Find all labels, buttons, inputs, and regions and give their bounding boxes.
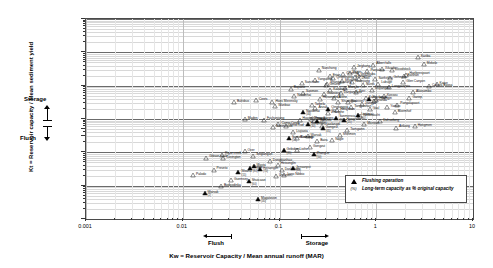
data-point-label: Mangla	[348, 86, 359, 89]
legend-item-flushing: Flushing operation	[349, 178, 463, 184]
data-point-label: Longyangxia	[392, 85, 410, 88]
data-point-capacity-percent: (60)	[361, 117, 366, 120]
x-axis-minor-tick	[143, 218, 144, 220]
gridline-v-major	[86, 19, 87, 219]
gridline-v-minor	[115, 19, 116, 219]
gridline-v-major	[473, 19, 474, 219]
data-point-label: Mokolo	[427, 62, 437, 65]
data-point-label: Naodehai	[297, 94, 311, 97]
data-point-label: Fengman	[358, 75, 372, 78]
data-point-capacity-percent: (50)	[292, 139, 297, 142]
data-point-reservoir	[308, 145, 313, 149]
data-point-label: Woodstock	[395, 68, 411, 71]
gridline-v-minor	[258, 19, 259, 219]
data-point-label: Glen Canyon	[406, 80, 425, 83]
data-point-label: Preveto	[217, 167, 228, 170]
data-point-label: Dahuofang	[383, 119, 399, 122]
flush-arrow-stem	[206, 236, 231, 237]
x-axis-minor-tick	[325, 218, 326, 220]
x-axis-minor-tick	[153, 218, 154, 220]
x-axis-minor-tick	[366, 218, 367, 220]
data-point-label: Singlangan	[256, 153, 272, 156]
data-point-flushing	[301, 110, 306, 114]
data-point-flushing	[311, 152, 316, 156]
data-point-reservoir	[354, 90, 359, 94]
data-point-capacity-percent: (45)	[320, 122, 325, 125]
data-point-capacity-percent: (85)	[287, 152, 292, 155]
legend-label-capacity: Long-term capacity as % original capacit…	[362, 186, 454, 191]
x-axis-minor-tick	[114, 218, 115, 220]
data-point-reservoir	[274, 174, 279, 178]
data-point-flushing	[334, 115, 339, 119]
data-point-label: Hongmen	[418, 124, 432, 127]
data-point-flushing	[236, 170, 241, 174]
data-point-reservoir	[297, 117, 302, 121]
x-axis-minor-tick	[177, 218, 178, 220]
data-point-reservoir	[365, 69, 370, 73]
data-point-label: Baira	[320, 139, 327, 142]
data-point-label: Shuangpai	[341, 100, 356, 103]
x-axis-minor-tick	[457, 218, 458, 220]
y-annotation-storage-label: Storage	[24, 96, 46, 102]
data-point-reservoir	[267, 159, 272, 163]
gridline-v-minor	[161, 19, 162, 219]
data-point-reservoir	[324, 83, 329, 87]
storage-arrowhead-icon	[325, 234, 329, 238]
data-point-label: Bodgodinka	[224, 184, 241, 187]
data-point-reservoir	[380, 67, 385, 71]
data-point-reservoir	[369, 87, 374, 91]
data-point-reservoir	[218, 184, 223, 188]
data-point-capacity-percent: (75)	[372, 100, 377, 103]
storage-arrow-cap	[43, 120, 52, 121]
data-point-reservoir	[331, 76, 336, 80]
filled-triangle-icon	[349, 178, 358, 184]
x-axis-minor-tick	[274, 218, 275, 220]
data-point-reservoir	[385, 105, 390, 109]
data-point-reservoir	[389, 68, 394, 72]
data-point-reservoir	[415, 55, 420, 59]
x-axis-tick	[85, 218, 86, 221]
data-point-label: Baishan	[407, 74, 419, 77]
data-point-capacity-percent: (35)	[326, 130, 331, 133]
x-axis-minor-tick	[257, 218, 258, 220]
data-point-label: Pongolapoort	[400, 102, 419, 105]
data-point-label: Ceres	[259, 98, 268, 101]
x-axis-minor-tick	[346, 218, 347, 220]
data-point-reservoir	[317, 96, 322, 100]
legend: Flushing operation (%) Long-term capacit…	[345, 175, 467, 203]
data-point-flushing	[291, 166, 296, 170]
percent-marker-icon: (%)	[349, 186, 358, 192]
data-point-label: Yantan	[390, 105, 400, 108]
data-point-flushing	[320, 126, 325, 130]
data-point-flushing	[258, 167, 263, 171]
data-point-flushing	[341, 118, 346, 122]
data-point-reservoir	[342, 86, 347, 90]
x-axis-minor-tick	[451, 218, 452, 220]
flush-arrow-stem	[47, 126, 48, 137]
gridline-v-minor	[154, 19, 155, 219]
x-axis-minor-tick	[463, 218, 464, 220]
data-point-reservoir	[394, 125, 399, 129]
chart-root: 0.111030501001 00010 000100 000 Kt = Res…	[0, 0, 493, 268]
data-point-reservoir	[291, 130, 296, 134]
data-point-label: Sefid Rud	[289, 124, 303, 127]
data-point-label: Shihmen	[343, 133, 356, 136]
data-point-capacity-percent: (60)	[252, 183, 257, 186]
data-point-reservoir	[412, 124, 417, 128]
data-point-reservoir	[434, 82, 439, 86]
data-point-label: Vaal	[373, 107, 379, 110]
x-axis-title: Kw = Reservoir Capacity / Mean annual ru…	[0, 252, 493, 259]
data-point-reservoir	[292, 94, 297, 98]
gridline-v-minor	[132, 19, 133, 219]
legend-label-flushing: Flushing operation	[362, 178, 403, 183]
data-point-reservoir	[336, 100, 341, 104]
data-point-label: Lixihe	[300, 148, 308, 151]
data-point-reservoir	[386, 85, 391, 89]
data-point-capacity-percent: (2)	[208, 194, 211, 197]
x-axis-minor-tick	[228, 218, 229, 220]
x-axis-tick-label: 10	[469, 224, 475, 229]
x-axis-tick	[182, 218, 183, 221]
x-axis-tick-label: 1	[374, 224, 377, 229]
data-point-capacity-percent: (65)	[296, 169, 301, 172]
x-axis-minor-tick	[167, 218, 168, 220]
